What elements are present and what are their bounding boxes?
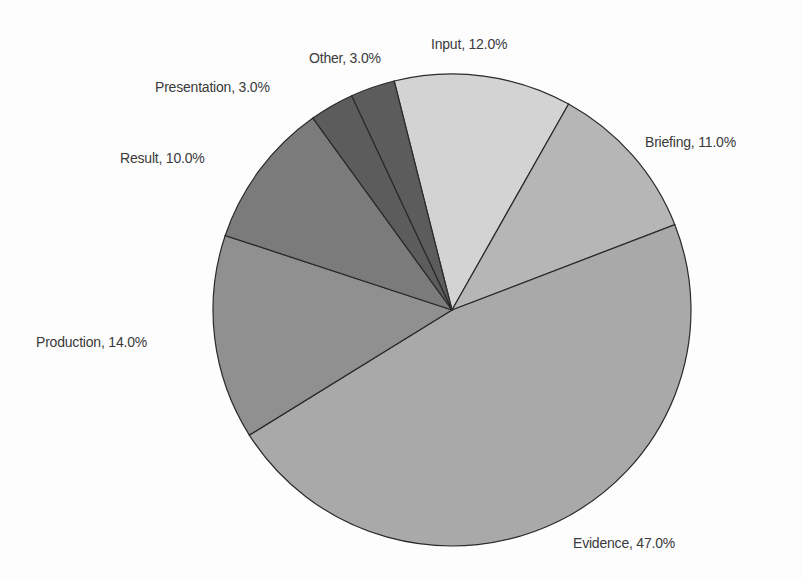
label-briefing: Briefing, 11.0% — [645, 134, 736, 150]
label-production: Production, 14.0% — [36, 334, 147, 350]
label-input: Input, 12.0% — [431, 36, 507, 52]
label-result: Result, 10.0% — [120, 150, 205, 166]
label-other: Other, 3.0% — [309, 50, 381, 66]
label-presentation: Presentation, 3.0% — [155, 79, 270, 95]
pie-chart — [0, 0, 802, 582]
label-evidence: Evidence, 47.0% — [573, 535, 675, 551]
